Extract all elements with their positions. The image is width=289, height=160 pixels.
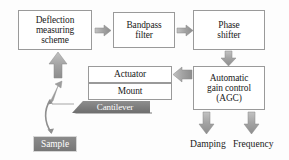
arrow-phase-to-agc (221, 51, 236, 66)
block-deflection-line3: scheme (36, 35, 75, 45)
block-deflection-line2: measuring (36, 25, 75, 35)
block-phase-shifter: Phase shifter (193, 10, 265, 50)
arrow-tip-deflection-feedback (49, 81, 62, 104)
block-phase-line1: Phase (217, 20, 240, 30)
block-agc-line1: Automatic (207, 73, 251, 83)
block-mount: Mount (88, 83, 172, 100)
arrow-tip-sample-interaction (46, 100, 74, 134)
block-mount-label: Mount (118, 86, 143, 96)
block-phase-line2: shifter (217, 30, 240, 40)
block-agc-line3: (AGC) (207, 93, 251, 103)
output-label-frequency: Frequency (233, 138, 274, 149)
block-automatic-gain-control: Automatic gain control (AGC) (193, 66, 265, 110)
block-deflection-line1: Deflection (36, 15, 75, 25)
block-cantilever-label: Cantilever (97, 102, 134, 112)
block-bandpass-filter: Bandpass filter (113, 12, 175, 48)
output-label-damping: Damping (190, 138, 226, 149)
block-bandpass-line2: filter (126, 30, 161, 40)
arrow-agc-to-actuator (173, 67, 192, 82)
block-sample: Sample (33, 136, 77, 152)
arrow-agc-to-frequency (244, 112, 259, 134)
block-actuator-label: Actuator (114, 69, 146, 79)
arrow-agc-to-damping (199, 112, 214, 134)
block-sample-label: Sample (41, 139, 69, 149)
block-agc-line2: gain control (207, 83, 251, 93)
block-deflection-measuring-scheme: Deflection measuring scheme (18, 10, 92, 50)
arrow-cantilever-to-deflection (49, 52, 67, 78)
block-bandpass-line1: Bandpass (126, 20, 161, 30)
block-actuator: Actuator (88, 66, 172, 83)
arrow-deflection-to-bandpass (95, 25, 111, 36)
block-cantilever: Cantilever (72, 101, 150, 113)
block-diagram: Deflection measuring scheme Bandpass fil… (0, 0, 289, 160)
arrow-bandpass-to-phase (177, 25, 193, 36)
